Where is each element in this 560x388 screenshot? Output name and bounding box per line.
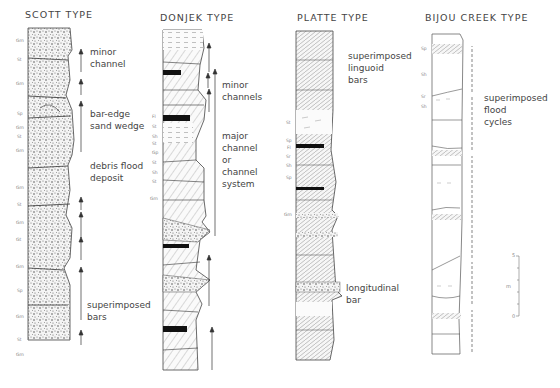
- donjek-annotation-minor-channels: minor channels: [222, 79, 262, 103]
- scott-facies-code: Gm: [16, 264, 24, 269]
- scott-facies-code: Gm: [16, 125, 24, 130]
- platte-facies-code: Gm: [284, 212, 292, 217]
- donjek-facies-code: St: [152, 160, 157, 165]
- platte-facies-code: Sr: [286, 154, 291, 159]
- scott-facies-code: Sp: [17, 111, 23, 116]
- platte-annotation-longitudinal-bar: longitudinal bar: [346, 282, 399, 306]
- scale-bottom-label: 0: [512, 313, 515, 319]
- scott-facies-code: Gt: [16, 237, 21, 242]
- bijou-annotation-flood-cycles: superimposed flood cycles: [484, 92, 548, 128]
- platte-facies-code: Sh: [286, 163, 292, 168]
- bijou-facies-code: Sr: [421, 94, 426, 99]
- scott-facies-code: Gm: [16, 352, 24, 357]
- donjek-facies-code: Gm: [150, 196, 158, 201]
- platte-column: [296, 31, 342, 360]
- donjek-facies-code: Sh: [152, 134, 158, 139]
- scott-column: [28, 28, 83, 345]
- scale-top-label: 5: [512, 252, 515, 258]
- scott-facies-code: Gm: [16, 185, 24, 190]
- bijou-facies-code: Sh: [421, 104, 427, 109]
- donjek-facies-code: St: [152, 141, 157, 146]
- bijou-facies-code: Sp: [421, 46, 427, 51]
- scott-facies-code: Gm: [16, 220, 24, 225]
- scott-annotation-bar-edge-sand-wedge: bar-edge sand wedge: [90, 108, 144, 132]
- stratigraphic-columns: [0, 0, 560, 388]
- scott-annotation-superimposed-bars: superimposed bars: [87, 299, 151, 323]
- platte-facies-code: Fl: [287, 145, 291, 150]
- platte-facies-code: St: [286, 120, 291, 125]
- scott-facies-code: Gm: [16, 148, 24, 153]
- donjek-annotation-major-channel: major channel or channel system: [222, 130, 258, 190]
- platte-facies-code: Sp: [286, 138, 292, 143]
- donjek-facies-code: Fl: [152, 114, 156, 119]
- scott-facies-code: Sp: [17, 288, 23, 293]
- scale-bar: [516, 256, 519, 316]
- scott-facies-code: Gm: [16, 81, 24, 86]
- scott-annotation-minor-channel: minor channel: [90, 46, 126, 70]
- scott-facies-code: St: [17, 202, 22, 207]
- donjek-facies-code: Sh: [152, 170, 158, 175]
- donjek-facies-code: St: [152, 124, 157, 129]
- scott-annotation-debris-flood: debris flood deposit: [90, 160, 143, 184]
- donjek-column: [163, 30, 217, 370]
- platte-facies-code: Sp: [286, 175, 292, 180]
- scott-facies-code: St: [17, 57, 22, 62]
- scale-unit-label: m: [506, 283, 511, 289]
- scott-facies-code: St: [17, 134, 22, 139]
- scott-facies-code: St: [17, 337, 22, 342]
- scott-facies-code: Gm: [16, 314, 24, 319]
- scott-facies-code: Gm: [16, 38, 24, 43]
- platte-annotation-linguoid-bars: superimposed linguoid bars: [348, 50, 412, 86]
- bijou-facies-code: Sh: [421, 72, 427, 77]
- bijou-column: [432, 34, 472, 354]
- donjek-facies-code: St: [152, 179, 157, 184]
- donjek-facies-code: Gp: [152, 150, 158, 155]
